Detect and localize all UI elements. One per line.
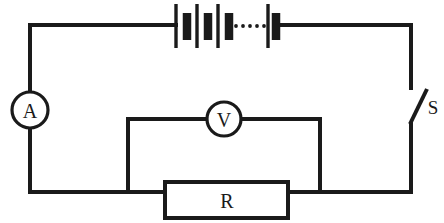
ellipsis-dot-1 (234, 24, 238, 28)
circuit-svg: A S V R (0, 0, 444, 223)
resistor-label: R (220, 190, 234, 212)
ammeter[interactable]: A (12, 92, 48, 128)
voltmeter[interactable]: V (207, 102, 241, 136)
resistor[interactable]: R (165, 182, 288, 218)
ellipsis-dot-3 (248, 24, 252, 28)
voltmeter-label: V (217, 109, 232, 131)
ellipsis-dot-5 (262, 24, 266, 28)
ellipsis-dot-4 (255, 24, 259, 28)
ellipsis-dot-2 (241, 24, 245, 28)
circuit-diagram: A S V R (0, 0, 444, 223)
battery-ellipsis (234, 24, 266, 28)
switch[interactable]: S (410, 89, 438, 124)
switch-blade[interactable] (410, 89, 427, 124)
switch-label: S (428, 97, 439, 118)
ammeter-label: A (23, 100, 38, 122)
battery-pack (176, 4, 276, 48)
